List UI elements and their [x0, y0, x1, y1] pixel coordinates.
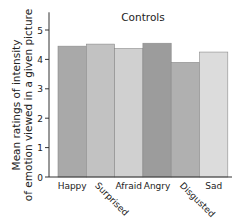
chart-title: Controls: [121, 11, 164, 23]
y-tick-label: 2: [37, 114, 43, 124]
x-axis: HappySurprisedAfraidAngryDisgustedSad: [49, 177, 232, 219]
y-tick-label: 3: [37, 84, 43, 94]
x-tick-label-sad: Sad: [205, 181, 222, 191]
bar-disgusted: [171, 62, 199, 177]
y-tick-label: 4: [37, 55, 43, 65]
y-tick-label: 1: [37, 143, 43, 153]
bar-surprised: [86, 44, 114, 177]
x-tick-label-afraid: Afraid: [116, 181, 142, 191]
bar-sad: [200, 52, 228, 177]
x-tick-label-happy: Happy: [58, 181, 88, 191]
y-axis: 012345: [37, 12, 49, 182]
bar-chart: Controls 012345 HappySurprisedAfraidAngr…: [0, 0, 250, 222]
bar-angry: [143, 43, 171, 177]
x-tick-label-angry: Angry: [144, 181, 171, 191]
y-tick-label: 5: [37, 26, 43, 36]
bars: [58, 43, 228, 177]
bar-afraid: [115, 49, 143, 177]
y-tick-label: 0: [37, 173, 43, 183]
bar-happy: [58, 46, 86, 177]
